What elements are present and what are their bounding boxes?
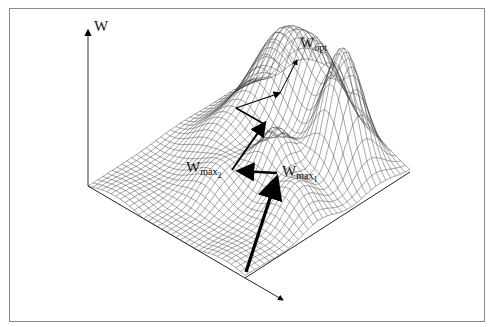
- w-max2-label: Wmax2: [186, 159, 221, 176]
- w-max2-sub: max: [200, 166, 217, 177]
- w-max1-index: 1: [313, 175, 317, 184]
- w-opt-sub: opt: [314, 42, 327, 53]
- landscape-diagram: [0, 0, 495, 327]
- w-max2-index: 2: [217, 171, 221, 180]
- w-opt-label: Wopt: [300, 35, 327, 52]
- w-max1-main: W: [282, 163, 296, 179]
- w-opt-main: W: [300, 35, 314, 51]
- w-max2-main: W: [186, 159, 200, 175]
- wireframe-mesh: [88, 26, 410, 276]
- w-max1-sub: max: [296, 170, 313, 181]
- w-max1-label: Wmax1: [282, 163, 317, 180]
- w-axis-label: W: [94, 18, 108, 35]
